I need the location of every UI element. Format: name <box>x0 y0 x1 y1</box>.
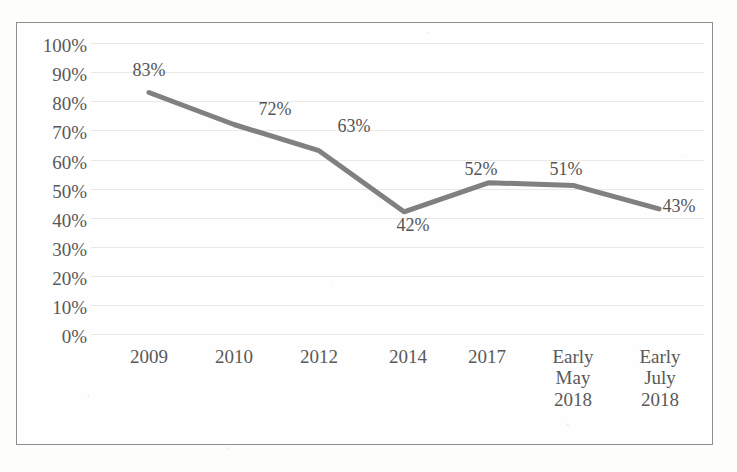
data-label: 83% <box>133 61 166 79</box>
chart-frame: 100% 90% 80% 70% 60% 50% 40% 30% 20% 10%… <box>16 22 713 445</box>
x-axis-tick-label: 2010 <box>191 346 277 367</box>
x-axis-tick-label: 2017 <box>444 346 530 367</box>
data-label: 72% <box>259 100 292 118</box>
x-axis-tick-label: 2014 <box>365 346 451 367</box>
x-axis-tick-label: Early July 2018 <box>617 346 703 410</box>
series-line <box>149 93 659 212</box>
x-axis-tick-label: 2012 <box>276 346 362 367</box>
data-label: 43% <box>663 197 696 215</box>
data-label: 42% <box>397 216 430 234</box>
plot-area: 100% 90% 80% 70% 60% 50% 40% 30% 20% 10%… <box>17 23 712 444</box>
data-label: 51% <box>550 160 583 178</box>
x-axis-tick-label: Early May 2018 <box>530 346 616 410</box>
data-label: 52% <box>465 160 498 178</box>
data-label: 63% <box>338 117 371 135</box>
x-axis-tick-label: 2009 <box>106 346 192 367</box>
